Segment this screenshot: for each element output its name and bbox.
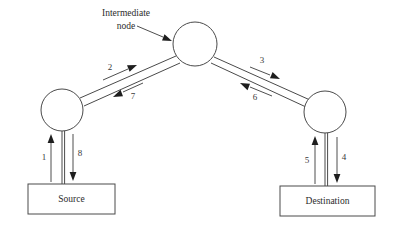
destination-box[interactable]: Destination: [280, 186, 375, 216]
source-node-circle[interactable]: [41, 89, 83, 131]
edge-6-arrowhead: [240, 83, 250, 90]
destination-trunk-connector: [325, 133, 328, 187]
edge-1-label: 1: [42, 152, 47, 162]
edge-3-label: 3: [260, 55, 265, 65]
diagram-canvas: Source Destination 1 8 5 4: [0, 0, 394, 228]
edge-3-arrowhead: [270, 72, 280, 79]
edge-2-label: 2: [108, 62, 113, 72]
edge-5-arrow: [312, 136, 319, 184]
diagram-svg: Source Destination 1 8 5 4: [0, 0, 394, 228]
edge-5-arrowhead: [312, 136, 319, 145]
destination-box-label: Destination: [306, 196, 350, 206]
intermediate-node-circle[interactable]: [173, 22, 217, 66]
source-box[interactable]: Source: [28, 184, 115, 214]
source-box-label: Source: [58, 194, 84, 204]
edge-4-label: 4: [342, 152, 347, 162]
edge-1-arrowhead: [48, 134, 55, 143]
edge-5-label: 5: [305, 155, 310, 165]
edge-3-arrow: [250, 67, 280, 79]
annotation-pointer-arrow: [137, 26, 172, 41]
edge-8-arrow: [70, 134, 77, 181]
intermediate-node-annotation-line1: Intermediate: [102, 8, 150, 18]
source-trunk-connector: [62, 131, 65, 185]
edge-4-arrow: [334, 137, 341, 183]
edge-6-label: 6: [253, 92, 258, 102]
edge-7-label: 7: [131, 91, 136, 101]
intermediate-node-annotation-line2: node: [117, 21, 135, 31]
edge-8-arrowhead: [70, 172, 77, 181]
annotation-pointer-arrowhead: [162, 34, 172, 41]
edge-2-arrowhead: [127, 65, 137, 72]
edge-4-arrowhead: [334, 174, 341, 183]
edge-8-label: 8: [78, 148, 83, 158]
edge-7-arrow: [113, 83, 143, 97]
destination-node-circle[interactable]: [304, 91, 346, 133]
edge-1-arrow: [48, 134, 55, 182]
